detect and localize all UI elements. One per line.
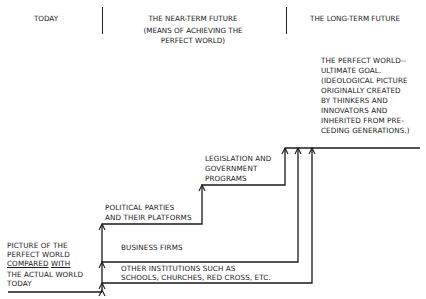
arrowheads <box>99 148 315 296</box>
business-path <box>102 148 298 262</box>
arrow-up-icon <box>99 290 105 296</box>
institutions-path <box>102 148 312 283</box>
staircase-lines <box>0 0 426 299</box>
political-path <box>102 148 285 224</box>
